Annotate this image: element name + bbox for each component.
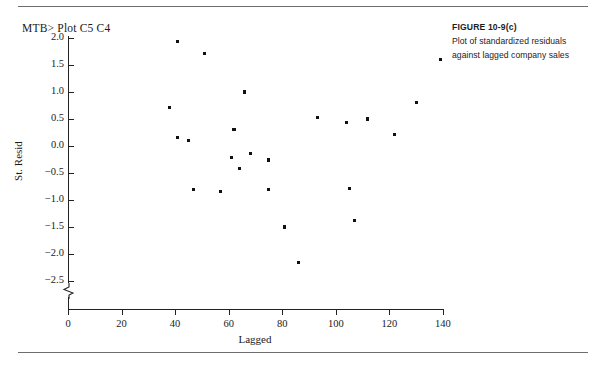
data-point <box>243 90 246 93</box>
data-point <box>238 167 241 170</box>
data-point <box>187 139 190 142</box>
x-axis-line <box>68 309 443 310</box>
data-point <box>230 156 233 159</box>
y-tick-mark <box>68 173 74 174</box>
x-tick-mark <box>68 309 69 315</box>
y-tick-label: 1.0 <box>30 86 64 96</box>
x-tick-label: 0 <box>48 318 88 329</box>
y-tick-mark <box>68 227 74 228</box>
data-point <box>168 106 171 109</box>
data-point <box>345 121 348 124</box>
data-point <box>366 117 369 120</box>
x-tick-label: 80 <box>262 318 302 329</box>
x-tick-label: 100 <box>316 318 356 329</box>
y-axis-title: St. Resid <box>12 126 24 196</box>
data-point <box>203 52 206 55</box>
x-tick-label: 120 <box>369 318 409 329</box>
x-tick-label: 20 <box>102 318 142 329</box>
data-point <box>316 116 319 119</box>
data-point <box>219 190 222 193</box>
x-tick-mark <box>175 309 176 315</box>
y-tick-label: 1.5 <box>30 59 64 69</box>
y-tick-label: 0.5 <box>30 113 64 123</box>
y-tick-mark <box>68 146 74 147</box>
x-tick-label: 140 <box>423 318 463 329</box>
x-tick-label: 40 <box>155 318 195 329</box>
data-point <box>353 219 356 222</box>
data-point <box>415 101 418 104</box>
y-tick-mark <box>68 92 74 93</box>
y-tick-mark <box>68 38 74 39</box>
data-point <box>249 152 252 155</box>
data-point <box>267 158 270 161</box>
x-tick-mark <box>282 309 283 315</box>
x-tick-mark <box>229 309 230 315</box>
y-tick-mark <box>68 65 74 66</box>
scatter-plot: St. Resid Lagged 2.01.51.00.50.0−0.5−1.0… <box>0 0 606 366</box>
y-tick-label: 0.0 <box>30 140 64 150</box>
data-point <box>176 136 179 139</box>
data-point <box>439 58 442 61</box>
data-point <box>176 40 179 43</box>
data-point <box>267 188 270 191</box>
x-axis-title: Lagged <box>175 333 335 345</box>
data-point <box>232 128 235 131</box>
x-tick-mark <box>443 309 444 315</box>
x-tick-mark <box>389 309 390 315</box>
data-point <box>393 133 396 136</box>
y-tick-label: −2.5 <box>30 275 64 285</box>
y-tick-mark <box>68 119 74 120</box>
y-tick-label: −2.0 <box>30 248 64 258</box>
data-point <box>283 225 286 228</box>
data-point <box>297 261 300 264</box>
y-axis-line <box>68 36 69 283</box>
y-tick-mark <box>68 254 74 255</box>
y-tick-mark <box>68 200 74 201</box>
data-point <box>192 188 195 191</box>
y-tick-label: −1.5 <box>30 221 64 231</box>
data-point <box>348 187 351 190</box>
x-tick-mark <box>122 309 123 315</box>
axis-break-icon <box>62 283 75 299</box>
y-tick-mark <box>68 281 74 282</box>
x-tick-mark <box>336 309 337 315</box>
y-tick-label: −0.5 <box>30 167 64 177</box>
figure-page: MTB> Plot C5 C4 FIGURE 10-9(c) Plot of s… <box>0 0 606 366</box>
x-tick-label: 60 <box>209 318 249 329</box>
y-tick-label: 2.0 <box>30 32 64 42</box>
y-tick-label: −1.0 <box>30 194 64 204</box>
